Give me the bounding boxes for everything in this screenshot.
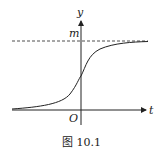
y-axis-label: y: [76, 6, 84, 19]
logistic-curve: [12, 42, 148, 110]
asymptote-label: m: [69, 27, 79, 40]
figure-caption: 图 10.1: [62, 136, 101, 149]
logistic-diagram: y t O m 图 10.1: [0, 0, 161, 161]
t-axis-label: t: [149, 104, 154, 117]
origin-label: O: [69, 112, 78, 125]
